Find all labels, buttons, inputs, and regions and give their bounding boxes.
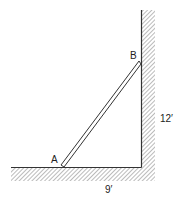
label-point-b: B bbox=[130, 50, 137, 61]
wall-hatching bbox=[142, 10, 155, 181]
floor-hatching bbox=[11, 168, 142, 181]
ladder bbox=[61, 61, 141, 167]
label-height: 12′ bbox=[160, 113, 173, 124]
label-point-a: A bbox=[51, 154, 58, 165]
label-base: 9′ bbox=[105, 184, 113, 195]
ladder-diagram: A B 12′ 9′ bbox=[0, 0, 177, 208]
